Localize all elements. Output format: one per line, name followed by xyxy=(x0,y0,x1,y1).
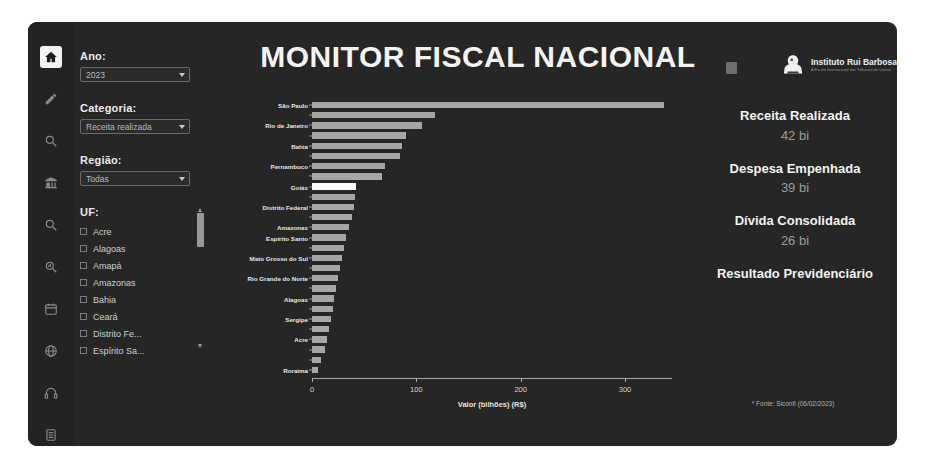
chart-bar[interactable] xyxy=(312,204,354,210)
magnifier-icon[interactable] xyxy=(40,214,62,236)
page-title: MONITOR FISCAL NACIONAL xyxy=(233,40,723,74)
checkbox-icon[interactable] xyxy=(80,313,87,320)
checkbox-icon[interactable] xyxy=(80,279,87,286)
calendar-icon[interactable] xyxy=(40,298,62,320)
logo-name: Instituto Rui Barbosa xyxy=(811,58,897,68)
ano-label: Ano: xyxy=(80,50,220,62)
regiao-select[interactable]: Todas xyxy=(80,171,190,186)
chart-bar[interactable] xyxy=(312,326,329,332)
x-axis-tick-label: 100 xyxy=(410,385,423,394)
chart-bar[interactable] xyxy=(312,316,331,322)
chart-bar[interactable] xyxy=(312,183,356,189)
chart-bar[interactable] xyxy=(312,132,406,138)
chevron-down-icon xyxy=(179,73,185,77)
kpi-card: Dívida Consolidada26 bi xyxy=(693,213,897,248)
uf-checkbox-item[interactable]: Bahia xyxy=(80,291,198,308)
regiao-value: Todas xyxy=(86,174,109,184)
uf-item-label: Acre xyxy=(93,227,112,237)
uf-checkbox-item[interactable]: Espírito Sa... xyxy=(80,342,198,359)
chart-bar[interactable] xyxy=(312,285,336,291)
y-axis-label: Rio de Janeiro xyxy=(265,122,308,129)
institute-logo: Instituto Rui Barbosa A Escola Internaci… xyxy=(780,52,897,78)
checkbox-icon[interactable] xyxy=(80,347,87,354)
categoria-select[interactable]: Receita realizada xyxy=(80,119,190,134)
checkbox-icon[interactable] xyxy=(80,228,87,235)
y-axis-label: Distrito Federal xyxy=(263,203,308,210)
uf-checkbox-item[interactable]: Amazonas xyxy=(80,274,198,291)
chart-y-axis: São PauloRio de JaneiroBahiaPernambucoGo… xyxy=(220,100,312,375)
bar-chart: São PauloRio de JaneiroBahiaPernambucoGo… xyxy=(220,100,690,420)
chart-plot-area[interactable] xyxy=(312,100,672,375)
uf-checkbox-item[interactable]: Ceará xyxy=(80,308,198,325)
uf-item-label: Amazonas xyxy=(93,278,136,288)
chart-bar[interactable] xyxy=(312,224,349,230)
chart-bar[interactable] xyxy=(312,153,400,159)
x-axis-tick xyxy=(312,378,313,382)
headphones-icon[interactable] xyxy=(40,382,62,404)
checkbox-icon[interactable] xyxy=(80,262,87,269)
chart-bar[interactable] xyxy=(312,194,355,200)
x-axis-tick xyxy=(521,378,522,382)
kpi-card: Despesa Empenhada39 bi xyxy=(693,161,897,196)
search-icon[interactable] xyxy=(40,130,62,152)
scrollbar-thumb[interactable] xyxy=(197,213,204,247)
kpi-title: Receita Realizada xyxy=(693,108,897,124)
chart-bar[interactable] xyxy=(312,234,346,240)
kpi-value: 39 bi xyxy=(693,180,897,195)
bank-icon[interactable] xyxy=(40,172,62,194)
chart-bar[interactable] xyxy=(312,265,340,271)
document-icon[interactable] xyxy=(40,424,62,446)
kpi-card: Receita Realizada42 bi xyxy=(693,108,897,143)
x-axis-tick-label: 200 xyxy=(514,385,527,394)
chart-bar[interactable] xyxy=(312,306,333,312)
chevron-down-icon xyxy=(179,125,185,129)
logo-subtitle: A Escola Internacional dos Tribunais de … xyxy=(811,68,897,72)
y-axis-label: Pernambuco xyxy=(271,163,308,170)
icon-rail xyxy=(28,22,74,446)
chart-bar[interactable] xyxy=(312,214,352,220)
uf-checkbox-item[interactable]: Alagoas xyxy=(80,240,198,257)
pencil-icon[interactable] xyxy=(40,88,62,110)
chart-x-axis-title: Valor (bilhões) (R$) xyxy=(312,400,672,409)
chart-bar[interactable] xyxy=(312,275,338,281)
kpi-title: Dívida Consolidada xyxy=(693,213,897,229)
magnifier-chart-icon[interactable] xyxy=(40,256,62,278)
y-axis-label: Amazonas xyxy=(277,224,308,231)
uf-checkbox-item[interactable]: Amapá xyxy=(80,257,198,274)
globe-icon[interactable] xyxy=(40,340,62,362)
source-note: * Fonte: Siconfi (06/02/2023) xyxy=(693,400,893,407)
chart-bar[interactable] xyxy=(312,245,344,251)
uf-list-scrollbar[interactable] xyxy=(197,208,204,348)
chart-bar[interactable] xyxy=(312,102,664,108)
ano-select[interactable]: 2023 xyxy=(80,67,190,82)
y-axis-label: São Paulo xyxy=(278,102,308,109)
scroll-up-arrow-icon[interactable] xyxy=(198,208,202,212)
categoria-label: Categoria: xyxy=(80,102,220,114)
chart-bar[interactable] xyxy=(312,112,435,118)
checkbox-icon[interactable] xyxy=(80,330,87,337)
chart-bar[interactable] xyxy=(312,367,318,373)
chart-bar[interactable] xyxy=(312,143,402,149)
checkbox-icon[interactable] xyxy=(80,245,87,252)
uf-checkbox-item[interactable]: Distrito Fe... xyxy=(80,325,198,342)
kpi-panel: Receita Realizada42 biDespesa Empenhada3… xyxy=(693,108,897,299)
y-axis-label: Espírito Santo xyxy=(266,234,308,241)
uf-checkbox-list[interactable]: AcreAlagoasAmapáAmazonasBahiaCearáDistri… xyxy=(80,223,198,359)
y-axis-label: Goiás xyxy=(291,183,308,190)
uf-checkbox-item[interactable]: Acre xyxy=(80,223,198,240)
home-icon[interactable] xyxy=(40,46,62,68)
chart-bar[interactable] xyxy=(312,357,321,363)
chart-bar[interactable] xyxy=(312,163,385,169)
bust-icon xyxy=(780,52,806,78)
chart-bar[interactable] xyxy=(312,122,422,128)
chart-bar[interactable] xyxy=(312,173,382,179)
chart-bar[interactable] xyxy=(312,346,325,352)
uf-label: UF: xyxy=(80,206,198,218)
kpi-value: 42 bi xyxy=(693,128,897,143)
chart-bar[interactable] xyxy=(312,295,334,301)
chart-bar[interactable] xyxy=(312,336,327,342)
checkbox-icon[interactable] xyxy=(80,296,87,303)
scroll-down-arrow-icon[interactable] xyxy=(198,344,202,348)
chart-x-axis-line xyxy=(312,378,672,379)
chart-bar[interactable] xyxy=(312,255,342,261)
